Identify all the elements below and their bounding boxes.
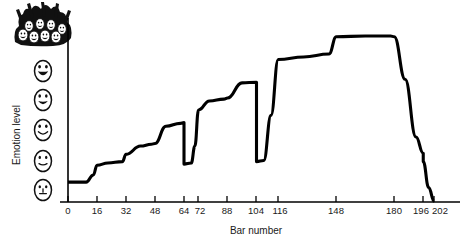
neutral-face-icon (35, 180, 52, 201)
x-tick-label: 0 (65, 205, 70, 216)
emotion-level-chart-figure: Emotion level (0, 0, 465, 245)
x-axis-ticks (68, 196, 434, 202)
very-happy-face-icon (35, 61, 52, 82)
x-tick-label: 88 (222, 205, 233, 216)
happy-face-icon (35, 90, 52, 111)
smile-face-icon (35, 120, 52, 141)
x-tick-label: 148 (328, 205, 344, 216)
x-tick-label: 64 (179, 205, 190, 216)
x-tick-label: 16 (92, 205, 103, 216)
cheering-crowd-icon (15, 2, 72, 46)
crowd-face (40, 30, 50, 42)
emotion-level-curve (68, 36, 434, 201)
crowd-face (25, 21, 34, 32)
x-tick-label: 48 (150, 205, 161, 216)
crowd-face (47, 20, 56, 31)
slight-smile-face-icon (35, 151, 52, 172)
x-axis-title: Bar number (230, 225, 283, 236)
crowd-face (29, 31, 39, 43)
y-axis-title: Emotion level (11, 105, 22, 165)
crowd-face (36, 19, 45, 30)
x-axis-tick-labels: 0 16 32 48 64 72 88 104 116 148 180 196 … (65, 205, 448, 216)
chart-canvas: Emotion level (0, 0, 465, 245)
x-tick-label: 104 (248, 205, 264, 216)
x-tick-label: 196 (413, 205, 429, 216)
x-tick-label: 72 (195, 205, 206, 216)
x-tick-label: 32 (121, 205, 132, 216)
x-tick-label: 202 (432, 205, 448, 216)
crowd-face (58, 24, 67, 35)
x-tick-label: 180 (386, 205, 402, 216)
x-tick-label: 116 (272, 205, 287, 216)
